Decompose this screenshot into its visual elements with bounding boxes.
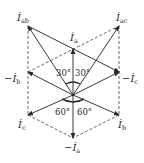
angle-lower-right: 60° bbox=[77, 107, 92, 117]
label-neg-i-a: −İa bbox=[64, 142, 80, 155]
label-neg-i-c: −İc bbox=[122, 73, 138, 86]
angle-upper-right: 30° bbox=[75, 68, 90, 78]
label-i-ab: İab bbox=[16, 12, 29, 25]
label-neg-i-b: −İb bbox=[4, 73, 21, 86]
angle-upper-left: 30° bbox=[56, 68, 71, 78]
label-i-c: İc bbox=[17, 119, 26, 132]
dashed-ic-to-neg-ia bbox=[28, 115, 73, 138]
label-i-ac: İac bbox=[115, 12, 128, 25]
phasor-diagram: 30° 30° 60° 60° İab İac İa −İb −İc İc İb… bbox=[0, 0, 144, 163]
origin-point bbox=[72, 94, 75, 97]
label-i-a: İa bbox=[69, 32, 78, 45]
dashed-ib-to-neg-ia bbox=[73, 115, 119, 138]
phasor-i-ab bbox=[28, 26, 73, 95]
angle-lower-left: 60° bbox=[55, 107, 70, 117]
label-i-b: İb bbox=[117, 119, 126, 132]
